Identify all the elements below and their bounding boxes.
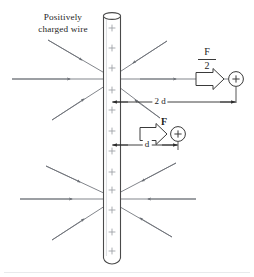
far-test-charge-group — [196, 69, 243, 104]
force-label-near: F — [156, 117, 172, 127]
force-arrow-far — [196, 69, 224, 90]
field-line-lower-left-diagonal-lower-arrow — [52, 219, 84, 240]
force-label-far-denominator: 2 — [196, 61, 218, 72]
dimension-label-d: d — [143, 139, 152, 149]
dimension-label-2d: 2 d — [152, 96, 167, 106]
force-label-far-numerator: F — [196, 47, 218, 58]
field-line-lower-left-diagonal-arrow — [52, 99, 84, 120]
field-line-upper-right-diagonal-lower-arrow — [142, 163, 176, 181]
wire-label-line2: charged wire — [38, 24, 87, 34]
figure-canvas: Positively charged wire F 2 F 2 d d — [0, 0, 254, 277]
wire-label: Positively charged wire — [26, 11, 100, 36]
charged-wire — [103, 13, 120, 264]
field-line-lower-right-diagonal-lower-arrow — [140, 218, 172, 237]
field-line-upper-right-diagonal-arrow — [133, 41, 167, 63]
field-line-upper-left-diagonal-arrow — [48, 40, 82, 60]
field-line-cluster-upper — [12, 40, 167, 120]
force-label-far: F 2 — [196, 47, 218, 71]
physics-diagram-graphics — [0, 0, 254, 277]
wire-top-cap — [103, 13, 120, 20]
field-line-upper-left-diagonal-lower-arrow — [46, 166, 80, 182]
wire-label-line1: Positively — [44, 12, 82, 22]
